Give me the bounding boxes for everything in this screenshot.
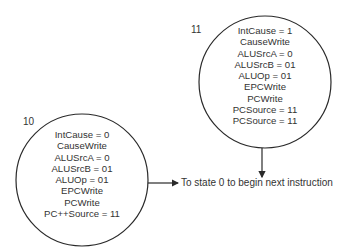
signal-line: ALUOp = 01	[22, 174, 142, 185]
signal-line: CauseWrite	[205, 36, 325, 47]
signal-line: EPCWrite	[22, 185, 142, 196]
signal-line: PC++Source = 11	[22, 208, 142, 219]
signal-line: IntCause = 1	[205, 25, 325, 36]
signal-line: ALUSrcB = 01	[205, 59, 325, 70]
signal-line: PCWrite	[22, 197, 142, 208]
state-10-label: 10	[23, 116, 34, 127]
transition-target-text: To state 0 to begin next instruction	[181, 177, 333, 188]
state-10-signals: IntCause = 0 CauseWrite ALUSrcA = 0 ALUS…	[22, 129, 142, 219]
signal-line: PCWrite	[205, 93, 325, 104]
state-11-label: 11	[191, 24, 201, 35]
signal-line: ALUSrcB = 01	[22, 163, 142, 174]
state-11-signals: IntCause = 1 CauseWrite ALUSrcA = 0 ALUS…	[205, 25, 325, 127]
signal-line: ALUSrcA = 0	[22, 152, 142, 163]
signal-line: CauseWrite	[22, 140, 142, 151]
signal-line: EPCWrite	[205, 81, 325, 92]
signal-line: PCSource = 11	[205, 115, 325, 126]
signal-line: IntCause = 0	[22, 129, 142, 140]
signal-line: ALUOp = 01	[205, 70, 325, 81]
signal-line: PCSource = 11	[205, 104, 325, 115]
signal-line: ALUSrcA = 0	[205, 48, 325, 59]
